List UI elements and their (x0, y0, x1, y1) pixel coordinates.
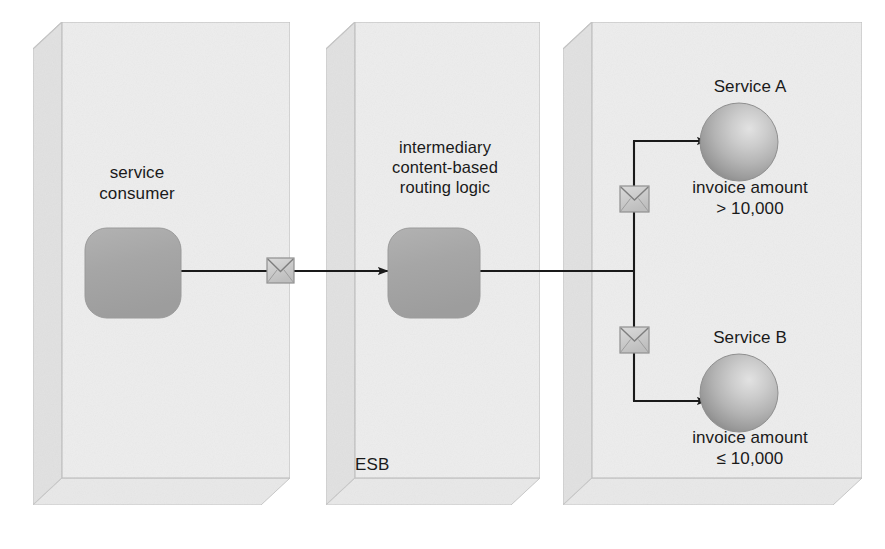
service-a-title-label: Service A (665, 77, 835, 98)
container-bottom-face (33, 478, 290, 505)
routing-logic-node[interactable] (388, 228, 480, 318)
message-route-b-envelope-icon[interactable] (620, 327, 649, 353)
container-side-face (563, 22, 592, 505)
routing-logic-label: intermediary content-based routing logic (360, 137, 530, 197)
service-a-sphere[interactable] (700, 103, 778, 181)
container-side-face (326, 22, 355, 505)
container-bottom-face (563, 478, 862, 505)
service-a-node[interactable] (700, 103, 778, 181)
service-b-sphere[interactable] (700, 354, 778, 432)
message-request-envelope-icon[interactable] (267, 258, 294, 283)
service-consumer-node[interactable] (85, 228, 181, 318)
service-b-condition-label: invoice amount ≤ 10,000 (655, 428, 845, 469)
service-a-condition-label: invoice amount > 10,000 (655, 178, 845, 219)
service-b-node[interactable] (700, 354, 778, 432)
message-route-a-envelope-icon[interactable] (620, 186, 649, 212)
esb-container-label: ESB (355, 455, 445, 476)
service-b-title-label: Service B (665, 328, 835, 349)
container-bottom-face (326, 478, 540, 505)
service-consumer-label: service consumer (57, 163, 217, 204)
container-side-face (33, 22, 62, 505)
service-consumer-shape[interactable] (85, 228, 181, 318)
routing-logic-shape[interactable] (388, 228, 480, 318)
diagram-canvas: service consumer intermediary content-ba… (0, 0, 885, 549)
